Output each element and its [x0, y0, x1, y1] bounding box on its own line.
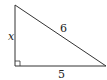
right-angle-marker — [15, 61, 20, 66]
label-horizontal-leg: 5 — [58, 68, 65, 80]
label-vertical-leg: x — [8, 30, 15, 43]
right-triangle-diagram: x 6 5 — [0, 0, 107, 80]
label-hypotenuse: 6 — [60, 22, 67, 35]
triangle — [15, 5, 106, 66]
